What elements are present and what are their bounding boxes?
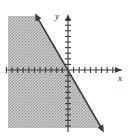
coordinate-plane-svg: y x — [0, 0, 132, 138]
y-axis-arrowhead — [65, 14, 71, 21]
shade-fill — [8, 16, 103, 128]
shaded-solution-region — [8, 16, 103, 128]
x-axis-label: x — [117, 73, 122, 83]
y-axis-label: y — [54, 11, 59, 21]
graph-figure: y x — [0, 0, 132, 138]
x-axis-arrowhead — [115, 67, 122, 73]
